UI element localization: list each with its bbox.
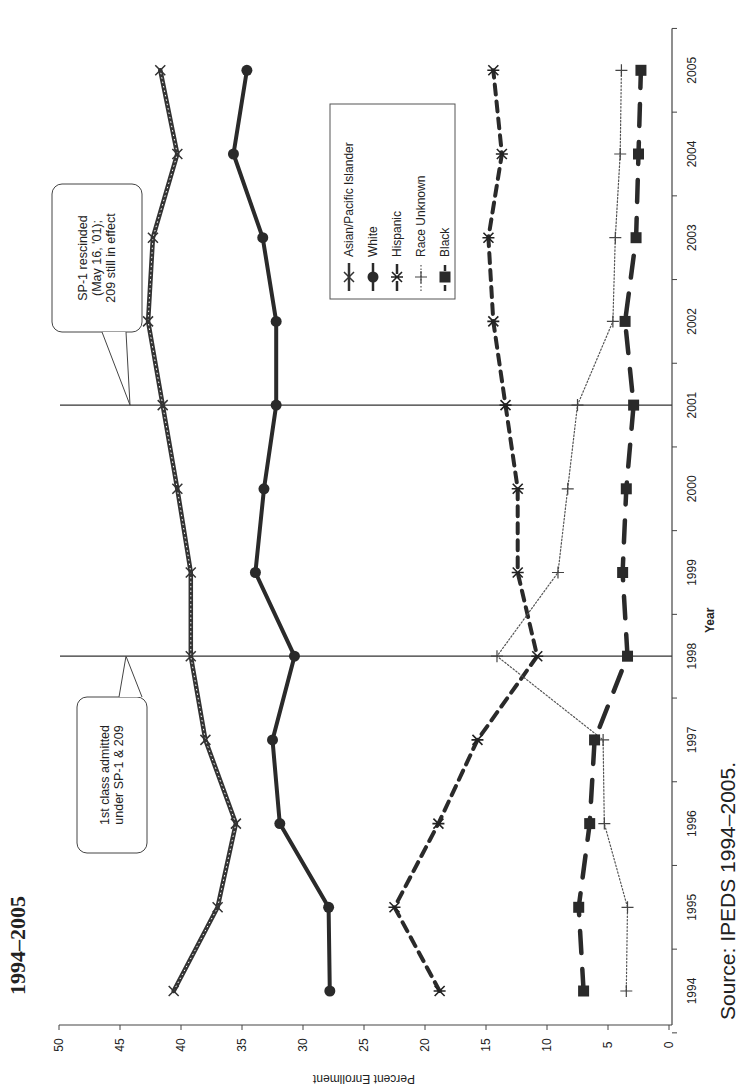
year-tick-label: 2004 (685, 140, 699, 167)
callout-pointer (102, 332, 130, 405)
percent-tick-label: 0 (662, 1041, 676, 1048)
marker-circle (258, 483, 269, 494)
callout-text-line: 209 still in effect (104, 213, 118, 303)
marker-asterisk (531, 651, 543, 661)
percent-tick-label: 30 (296, 1038, 310, 1052)
percent-tick-label: 15 (479, 1038, 493, 1052)
series-line (579, 70, 641, 991)
x-axis-title: Year (703, 607, 717, 633)
callout-pointer (119, 656, 142, 697)
percent-tick-label: 10 (540, 1038, 554, 1052)
legend: Asian/Pacific IslanderWhiteHispanicRace … (330, 104, 455, 299)
marker-plus (622, 901, 634, 913)
rotated-line-chart: 0510152025303540455019941995199619971998… (0, 0, 746, 1092)
marker-circle (368, 272, 379, 283)
marker-square (631, 232, 642, 243)
percent-tick-label: 35 (235, 1038, 249, 1052)
marker-plus (552, 567, 564, 579)
marker-square (584, 818, 595, 829)
callout-text-line: under SP-1 & 209 (112, 725, 126, 824)
chart-title-text: 1994–2005 (5, 896, 30, 995)
marker-circle (323, 902, 334, 913)
marker-plus (607, 315, 619, 327)
legend-label: White (366, 226, 380, 257)
chart-canvas: 0510152025303540455019941995199619971998… (0, 0, 746, 1092)
percent-tick-label: 25 (357, 1038, 371, 1052)
marker-square (621, 483, 632, 494)
marker-circle (267, 734, 278, 745)
marker-plus (615, 64, 627, 76)
marker-square (578, 986, 589, 997)
legend-label: Black (438, 227, 452, 257)
marker-square (440, 272, 451, 283)
legend-label: Asian/Pacific Islander (342, 142, 356, 257)
marker-circle (228, 149, 239, 160)
marker-circle (271, 400, 282, 411)
marker-square (622, 651, 633, 662)
series-white (228, 65, 335, 997)
legend-label: Hispanic (390, 211, 404, 257)
percent-tick-label: 45 (113, 1038, 127, 1052)
percent-tick-label: 50 (52, 1038, 66, 1052)
year-tick-label: 1995 (685, 894, 699, 921)
marker-circle (257, 232, 268, 243)
year-tick-label: 1996 (685, 810, 699, 837)
marker-plus (609, 232, 621, 244)
series-asian-pacific-islander (143, 65, 241, 996)
marker-plus (598, 818, 610, 830)
series-line-overlay (148, 70, 236, 991)
marker-square (635, 65, 646, 76)
year-tick-label: 1999 (685, 559, 699, 586)
marker-square (573, 902, 584, 913)
source-text: Source: IPEDS 1994–2005. (716, 762, 739, 1020)
year-tick-label: 1994 (685, 977, 699, 1004)
percent-tick-label: 40 (174, 1038, 188, 1052)
callout-text-line: 1st class admitted (98, 725, 112, 825)
series-black (573, 65, 646, 997)
legend-label: Race Unknown (414, 176, 428, 257)
marker-plus (562, 483, 574, 495)
year-tick-label: 2003 (685, 224, 699, 251)
marker-square (628, 400, 639, 411)
marker-plus (620, 985, 632, 997)
callout-sp1-209: 1st class admittedunder SP-1 & 209 (77, 656, 147, 853)
year-tick-label: 2000 (685, 475, 699, 502)
series-race-unknown (491, 64, 634, 997)
callout-sp1-rescinded: SP-1 rescinded(May 16, '01);209 still in… (52, 184, 142, 405)
marker-square (620, 316, 631, 327)
percent-tick-label: 5 (601, 1041, 615, 1048)
marker-square (617, 567, 628, 578)
percent-tick-label: 20 (418, 1038, 432, 1052)
year-tick-label: 1997 (685, 726, 699, 753)
marker-plus (572, 399, 584, 411)
callout-text-line: SP-1 rescinded (76, 215, 90, 301)
marker-circle (250, 567, 261, 578)
callout-text-line: (May 16, '01); (90, 220, 104, 296)
marker-square (633, 149, 644, 160)
marker-circle (324, 986, 335, 997)
y-axis-title: Percent Enrollment (312, 1072, 415, 1086)
marker-circle (241, 65, 252, 76)
year-tick-label: 2001 (685, 391, 699, 418)
year-tick-label: 2002 (685, 308, 699, 335)
reference-lines (60, 405, 672, 656)
callouts: 1st class admittedunder SP-1 & 209SP-1 r… (52, 184, 147, 853)
series-line (234, 70, 330, 991)
marker-circle (289, 651, 300, 662)
marker-plus (614, 148, 626, 160)
year-tick-label: 1998 (685, 643, 699, 670)
marker-circle (271, 316, 282, 327)
marker-circle (274, 818, 285, 829)
year-tick-label: 2005 (685, 57, 699, 84)
marker-square (589, 734, 600, 745)
marker-plus (491, 650, 503, 662)
